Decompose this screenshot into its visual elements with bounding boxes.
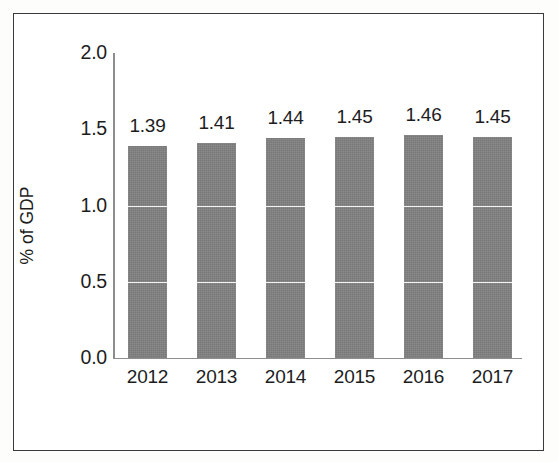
x-tick-label-2013: 2013 [181,366,252,388]
x-axis-line [113,358,522,360]
bar-value-label: 1.46 [390,104,457,126]
y-tick-label: 1.0 [61,194,107,217]
bar-2013 [197,143,236,358]
y-axis-title: % of GDP [17,156,38,296]
bar-value-label: 1.45 [321,106,388,128]
bar-value-label: 1.41 [183,112,250,134]
bar-2017 [473,137,512,358]
bar-gridline [128,206,167,208]
bar-gridline [197,206,236,208]
y-tick-0-5: 0.5 [59,270,107,294]
bar-gridline [266,206,305,208]
y-tick-label: 0.0 [61,346,107,369]
y-tick-1-5: 1.5 [59,117,107,141]
x-tick-label-2014: 2014 [250,366,321,388]
bar-gridline [473,282,512,284]
bar-gridline [404,282,443,284]
y-tick-1: 1.0 [59,194,107,218]
y-tick-label: 1.5 [61,117,107,140]
y-tick-label: 2.0 [61,41,107,64]
bar-value-label: 1.39 [114,115,181,137]
chart-figure: % of GDP 2.01.51.00.50.0 1.391.411.441.4… [0,0,558,462]
bar-gridline [473,206,512,208]
bar-gridline [197,282,236,284]
bar-gridline [128,282,167,284]
x-tick-label-2015: 2015 [319,366,390,388]
bar-value-label: 1.44 [252,107,319,129]
x-tick-label-2017: 2017 [457,366,528,388]
x-tick-label-2016: 2016 [388,366,459,388]
y-tick-0: 0.0 [59,346,107,370]
bar-2016 [404,135,443,358]
bar-gridline [404,206,443,208]
x-tick-label-2012: 2012 [112,366,183,388]
bar-2012 [128,146,167,358]
bar-chart-plot-area: % of GDP 2.01.51.00.50.0 1.391.411.441.4… [0,0,558,462]
bar-gridline [266,282,305,284]
y-tick-2: 2.0 [59,41,107,65]
y-tick-label: 0.5 [61,270,107,293]
bar-gridline [335,282,374,284]
bar-gridline [335,206,374,208]
bar-2014 [266,138,305,358]
bar-value-label: 1.45 [459,106,526,128]
bar-2015 [335,137,374,358]
y-axis-line [113,53,115,359]
